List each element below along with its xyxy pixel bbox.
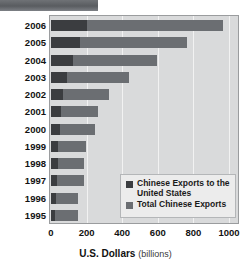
chart-legend: Chinese Exports to the United States Tot… [120, 174, 236, 218]
bar-segment-exports-to-us [51, 106, 61, 117]
y-axis-label-1996: 1996 [2, 193, 46, 204]
bar-segment-exports-to-us [51, 20, 87, 31]
x-tick-label-200: 200 [79, 227, 95, 238]
y-axis-label-1999: 1999 [2, 141, 46, 152]
y-axis-category-labels: 2006200520042003200220012000199919981997… [0, 16, 46, 223]
bar-row [50, 20, 238, 31]
legend-label-exports-to-us: Chinese Exports to the United States [137, 179, 231, 198]
y-axis-label-1995: 1995 [2, 210, 46, 221]
bar-segment-exports-to-us [51, 175, 57, 186]
y-axis-label-2003: 2003 [2, 72, 46, 83]
bar-segment-exports-to-us [51, 55, 73, 66]
x-tick-label-800: 800 [185, 227, 201, 238]
bar-segment-exports-to-us [51, 72, 67, 83]
y-axis-label-1998: 1998 [2, 158, 46, 169]
bar-segment-exports-to-us [51, 141, 58, 152]
bar-row [50, 37, 238, 48]
x-tick-label-1000: 1000 [218, 227, 239, 238]
bar-segment-exports-to-us [51, 193, 56, 204]
y-axis-label-1997: 1997 [2, 175, 46, 186]
y-axis-label-2001: 2001 [2, 106, 46, 117]
bar-segment-exports-to-us [51, 210, 55, 221]
bar-row [50, 89, 238, 100]
legend-item-exports-to-us: Chinese Exports to the United States [126, 179, 231, 198]
bar-row [50, 124, 238, 135]
bar-row [50, 141, 238, 152]
x-tick-label-600: 600 [150, 227, 166, 238]
chart-page: 2006200520042003200220012000199919981997… [0, 0, 251, 271]
legend-swatch-icon-exports-to-us [126, 181, 133, 188]
y-axis-label-2000: 2000 [2, 124, 46, 135]
top-banner-strip [0, 0, 98, 11]
bar-segment-exports-to-us [51, 124, 60, 135]
x-tick-label-400: 400 [114, 227, 130, 238]
bar-segment-exports-to-us [51, 37, 80, 48]
y-axis-label-2004: 2004 [2, 55, 46, 66]
legend-item-total-exports: Total Chinese Exports [126, 200, 231, 210]
bar-row [50, 106, 238, 117]
bar-row [50, 158, 238, 169]
x-axis-title: U.S. Dollars (billions) [0, 248, 251, 259]
y-axis-label-2006: 2006 [2, 20, 46, 31]
bar-row [50, 72, 238, 83]
y-axis-label-2002: 2002 [2, 89, 46, 100]
x-tick-label-0: 0 [48, 227, 53, 238]
axis-title-units: (billions) [138, 249, 172, 259]
bar-segment-exports-to-us [51, 158, 58, 169]
y-axis-label-2005: 2005 [2, 37, 46, 48]
legend-swatch-icon-total-exports [126, 202, 133, 209]
x-axis-tick-labels: 02004006008001000 [0, 227, 251, 240]
bar-segment-exports-to-us [51, 89, 63, 100]
axis-title-main: U.S. Dollars [79, 248, 135, 259]
bar-row [50, 55, 238, 66]
legend-label-total-exports: Total Chinese Exports [137, 200, 226, 210]
